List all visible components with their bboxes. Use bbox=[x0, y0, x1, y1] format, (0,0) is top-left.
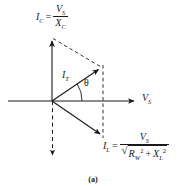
label-it: IT bbox=[62, 70, 69, 83]
il-fraction: VS√RW2+XL2 bbox=[120, 131, 169, 162]
figure-caption: (a) bbox=[0, 176, 186, 184]
label-ic: IC=VSXC bbox=[36, 3, 68, 31]
il-phasor-arrow bbox=[52, 101, 100, 134]
label-theta: θ bbox=[84, 78, 89, 88]
il-radicand: RW2+XL2 bbox=[128, 145, 167, 161]
il-den-term2-subscript: L bbox=[159, 154, 163, 161]
il-den-plus: + bbox=[143, 148, 153, 159]
label-il: IL=VS√RW2+XL2 bbox=[103, 131, 169, 162]
ic-num-subscript: S bbox=[62, 9, 65, 16]
ic-denominator: XC bbox=[53, 17, 67, 31]
it-phasor-arrow bbox=[52, 70, 99, 102]
il-den-term1-subscript: W bbox=[135, 154, 140, 161]
phasor-diagram-figure: IC=VSXC IL=VS√RW2+XL2 IT VS θ (a) bbox=[0, 0, 186, 186]
il-equals: = bbox=[110, 140, 120, 151]
ic-equals: = bbox=[44, 11, 54, 22]
radical-sign-icon: √ bbox=[122, 145, 128, 156]
il-radical: √RW2+XL2 bbox=[122, 145, 167, 161]
ic-fraction: VSXC bbox=[53, 3, 67, 31]
ic-numerator: VS bbox=[53, 3, 67, 17]
it-subscript: T bbox=[65, 75, 69, 82]
il-den-term2-exponent: 2 bbox=[163, 147, 166, 154]
il-num-subscript: S bbox=[146, 137, 149, 144]
ic-den-subscript: C bbox=[61, 23, 65, 30]
label-vs: VS bbox=[142, 93, 151, 106]
theta-angle-arc bbox=[77, 84, 82, 102]
construction-line-ic-to-it bbox=[53, 39, 102, 68]
il-numerator: VS bbox=[120, 131, 169, 145]
vs-subscript: S bbox=[148, 98, 151, 105]
il-denominator: √RW2+XL2 bbox=[120, 145, 169, 162]
